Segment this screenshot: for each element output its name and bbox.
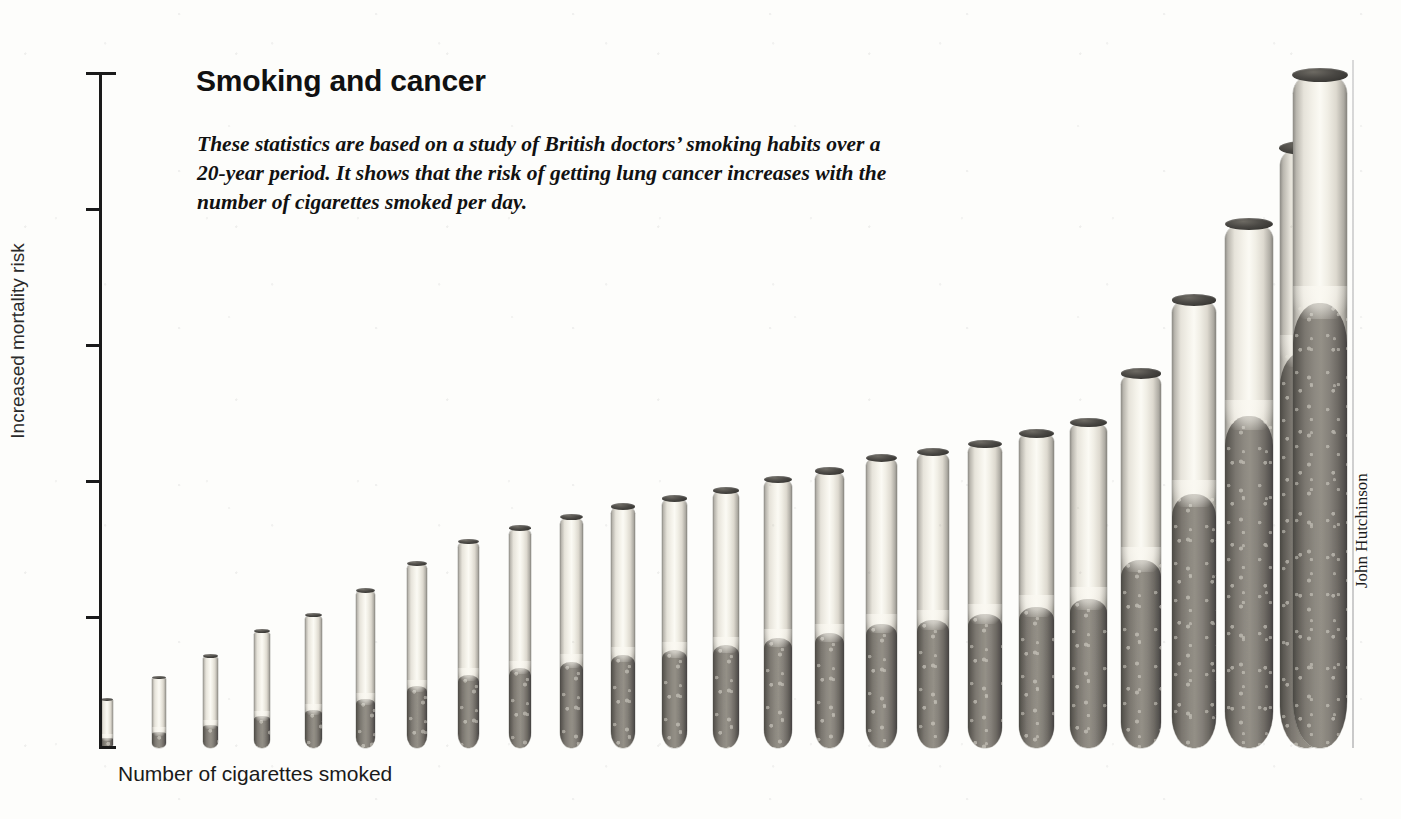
bar-cigarette [1225, 223, 1273, 748]
cigarette-tip [764, 476, 792, 483]
cigarette-paper [407, 563, 427, 748]
cigarette-filter [1121, 560, 1161, 748]
cigarette-tip [1019, 429, 1055, 438]
cigarette-tip [713, 487, 740, 494]
bar-cigarette [815, 471, 844, 748]
cigarette-paper [356, 590, 375, 748]
cigarette-filter [254, 716, 270, 748]
bar-cigarette [866, 457, 897, 748]
cigarette-paper [866, 457, 897, 748]
bar-cigarette [305, 615, 322, 748]
cigarette-filter [1019, 607, 1054, 748]
y-axis-top-cap [99, 72, 116, 75]
cigarette-paper [713, 490, 739, 748]
cigarette-filter [458, 675, 479, 748]
cigarette-filter [560, 662, 583, 748]
cigarette-paper [1121, 373, 1161, 748]
cigarette-paper [1172, 299, 1216, 748]
y-tick-mark [86, 480, 100, 483]
cigarette-paper [764, 479, 792, 748]
cigarette-paper [509, 528, 531, 748]
bar-cigarette [1293, 73, 1347, 748]
bar-cigarette [1070, 422, 1107, 748]
cigarette-paper [458, 541, 479, 748]
figure-canvas: ×25×20×15×10×5 Increased mortality risk … [0, 0, 1401, 819]
bar-cigarette [458, 541, 479, 748]
standfirst-text: These statistics are based on a study of… [197, 130, 887, 217]
cigarette-paper [611, 506, 635, 748]
cigarette-tip [1292, 68, 1347, 82]
y-tick-mark [86, 208, 100, 211]
bar-cigarette [509, 528, 531, 748]
cigarette-paper [815, 471, 844, 748]
cigarette-filter [815, 633, 844, 748]
bar-cigarette [917, 452, 949, 748]
bar-cigarette [1019, 432, 1054, 748]
cigarette-filter [662, 650, 687, 748]
cigarette-paper [305, 615, 322, 748]
cigarette-paper [968, 443, 1002, 748]
cigarette-filter [968, 614, 1002, 748]
cigarette-tip [356, 588, 375, 593]
cigarette-paper [254, 631, 270, 748]
bar-cigarette [611, 506, 635, 748]
bar-cigarette [356, 590, 375, 748]
cigarette-filter [1070, 599, 1107, 748]
y-axis: ×25×20×15×10×5 Increased mortality risk [0, 0, 220, 819]
bar-cigarette [968, 443, 1002, 748]
y-axis-title: Increased mortality risk [7, 231, 29, 451]
bar-cigarette [662, 498, 687, 748]
cigarette-tip [815, 467, 845, 475]
cigarette-tip [1172, 294, 1217, 305]
bar-cigarette [764, 479, 792, 748]
cigarette-tip [509, 525, 531, 531]
cigarette-filter [305, 710, 322, 748]
cigarette-tip [662, 495, 688, 502]
cigarette-paper [662, 498, 687, 748]
cigarette-tip [1121, 368, 1162, 378]
cigarette-paper [1019, 432, 1054, 748]
cigarette-paper [917, 452, 949, 748]
cigarette-filter [1172, 494, 1216, 748]
cigarette-filter [713, 645, 739, 748]
cigarette-paper [1070, 422, 1107, 748]
cigarette-filter [407, 686, 427, 748]
y-tick-mark [86, 72, 100, 75]
cigarette-filter [356, 699, 375, 748]
cigarette-tip [611, 503, 635, 509]
y-axis-line [99, 72, 102, 749]
bar-cigarette [254, 631, 270, 748]
cigarette-paper [1225, 223, 1273, 748]
cigarette-filter [1293, 303, 1347, 748]
y-tick-mark [86, 616, 100, 619]
cigarette-filter [611, 655, 635, 748]
bar-cigarette [1121, 373, 1161, 748]
cigarette-filter [509, 668, 531, 748]
bar-cigarette [1172, 299, 1216, 748]
cigarette-tip [866, 454, 897, 462]
cigarette-filter [917, 620, 949, 748]
y-tick-mark [86, 344, 100, 347]
photo-credit: John Hutchinson [1352, 473, 1372, 588]
cigarette-filter [1225, 416, 1273, 748]
cigarette-filter [866, 624, 897, 748]
cigarette-paper [1293, 73, 1347, 748]
bar-cigarette [560, 517, 583, 748]
bar-cigarette [713, 490, 739, 748]
page-title: Smoking and cancer [196, 64, 486, 98]
cigarette-paper [560, 517, 583, 748]
y-axis-bottom-cap [99, 746, 116, 749]
x-axis-title: Number of cigarettes smoked [118, 762, 392, 786]
bar-cigarette [407, 563, 427, 748]
cigarette-filter [764, 638, 792, 748]
